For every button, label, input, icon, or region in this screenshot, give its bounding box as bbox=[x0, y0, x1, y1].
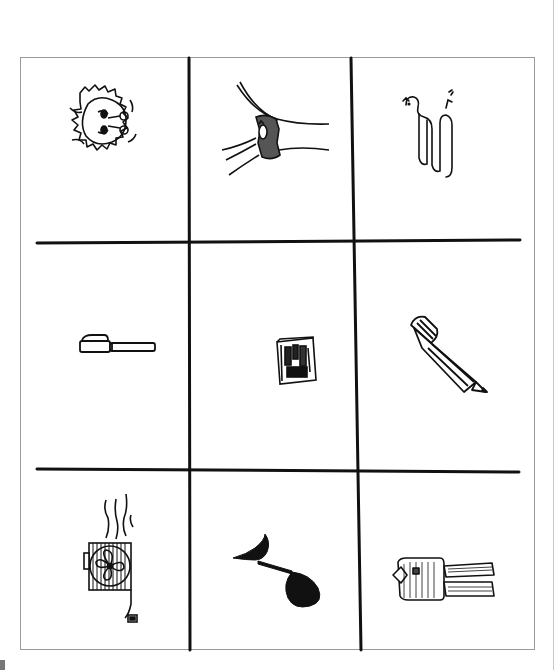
lion-head-icon bbox=[70, 85, 136, 150]
vertical-divider-2 bbox=[351, 58, 361, 650]
vertical-divider-1 bbox=[189, 58, 190, 650]
picture-grid bbox=[0, 0, 557, 670]
snake-icon bbox=[403, 90, 453, 177]
suit-icon bbox=[393, 558, 494, 600]
music-note-icon bbox=[233, 534, 320, 607]
pencil-icon bbox=[411, 317, 487, 392]
horizontal-divider-2 bbox=[37, 469, 519, 472]
fan-icon bbox=[84, 494, 137, 622]
nest-on-branch-icon bbox=[222, 82, 329, 175]
horizontal-divider-1 bbox=[37, 240, 520, 243]
pen-icon bbox=[80, 335, 155, 352]
book-icon bbox=[277, 337, 316, 384]
